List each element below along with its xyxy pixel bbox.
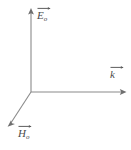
- wave-vector-axis: [31, 89, 127, 95]
- e-field-subscript: o: [44, 15, 48, 23]
- wave-vector-label: k: [110, 69, 115, 80]
- vector-arrow-icon: [18, 124, 32, 128]
- wave-vector-symbol: k: [110, 69, 115, 80]
- h-field-subscript: o: [26, 133, 30, 141]
- h-field-label: Ho: [18, 128, 29, 139]
- h-field-symbol-stack: Ho: [18, 128, 29, 139]
- wave-vector-symbol-stack: k: [110, 69, 115, 80]
- h-field-arrowhead-icon: [8, 120, 15, 127]
- e-field-symbol-stack: Eo: [37, 10, 47, 21]
- e-field-symbol: E: [37, 10, 44, 21]
- vector-arrow-icon: [37, 6, 51, 10]
- vector-arrow-icon: [110, 65, 124, 69]
- e-field-axis: [28, 8, 34, 92]
- vector-triad-figure: Eo k Ho: [0, 0, 131, 150]
- e-field-label: Eo: [37, 10, 47, 21]
- h-field-axis-line: [11, 92, 31, 123]
- h-field-axis: [8, 92, 31, 127]
- h-field-symbol: H: [18, 128, 26, 139]
